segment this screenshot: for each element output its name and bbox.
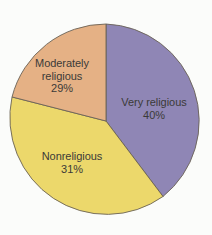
pie-chart: Very religious 40% Moderately religious … xyxy=(0,0,212,235)
pie-chart-svg xyxy=(0,0,212,235)
